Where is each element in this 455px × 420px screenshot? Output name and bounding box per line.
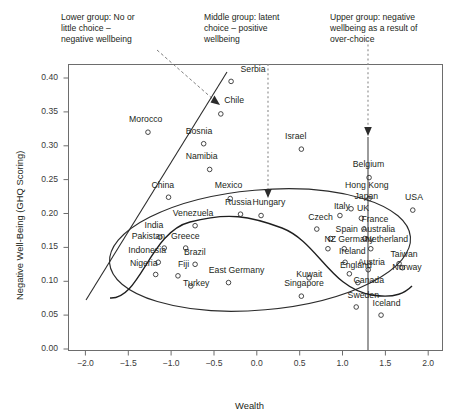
data-point-marker [219,112,224,117]
y-tick-label: 0.35 [31,106,58,116]
data-point-marker [410,208,415,213]
x-tick-label: −1.5 [117,358,139,368]
x-tick-label: 1.5 [374,358,396,368]
data-point-label: NZ [325,234,337,244]
y-tick-label: 0.40 [31,72,58,82]
data-point-marker [166,195,171,200]
data-point-marker [201,141,206,146]
x-tick-label: 0.5 [289,358,311,368]
data-point-label: Namibia [186,151,218,161]
data-point-label: Turkey [183,278,209,288]
data-point-label: India [145,220,164,230]
data-point-marker [193,262,198,267]
y-axis-ticks [64,78,69,349]
x-tick-label: 0.0 [246,358,268,368]
data-point-label: Canada [354,275,384,285]
data-point-marker [193,223,198,228]
data-point-marker [368,246,373,251]
data-point-label: Brazil [184,247,206,257]
data-point-label: Indonesia [128,245,166,255]
data-point-label: Bosnia [186,126,213,136]
data-point-marker [354,305,359,310]
data-point-label: Chile [224,95,244,105]
upper-group-dashed-line [364,40,372,136]
data-point-label: Taiwan [391,249,418,259]
data-point-label: Iceland [373,298,401,308]
x-tick-label: −0.5 [203,358,225,368]
data-point-label: Singapore [284,278,324,288]
y-tick-label: 0.00 [31,343,58,353]
data-point-label: Israel [285,131,306,141]
data-point-label: Nigeria [130,258,158,268]
data-point-label: Belgium [353,159,384,169]
data-point-label: Spain [336,224,358,234]
data-point-label: Norway [392,262,421,272]
data-point-label: France [361,214,388,224]
data-point-marker [207,167,212,172]
data-point-marker [176,274,181,279]
data-point-label: Japan [355,191,379,201]
data-point-label: Russia [225,197,252,207]
x-tick-label: 2.0 [417,358,439,368]
data-point-label: Hungary [253,197,286,207]
data-point-label: Kuwait [296,269,322,279]
data-point-marker [379,313,384,318]
data-point-label: Hong Kong [345,180,388,190]
data-point-marker [347,272,352,277]
data-point-marker [314,227,319,232]
data-point-label: Australia [361,224,395,234]
y-tick-label: 0.15 [31,241,58,251]
y-tick-label: 0.10 [31,275,58,285]
middle-group-dashed-line [264,64,272,198]
data-point-marker [299,147,304,152]
data-point-label: Mexico [215,180,243,190]
data-point-label: USA [405,192,423,202]
x-tick-label: −2.0 [74,358,96,368]
data-point-label: Czech [308,212,333,222]
plot-canvas [0,0,455,420]
data-point-label: Ireland [339,246,366,256]
data-point-marker [146,130,151,135]
data-point-marker [229,79,234,84]
data-point-marker [259,213,264,218]
data-point-marker [238,212,243,217]
data-point-label: Austria [358,257,385,267]
data-point-label: Serbia [241,64,266,74]
data-point-label: China [151,180,174,190]
data-point-marker [226,280,231,285]
y-tick-label: 0.30 [31,140,58,150]
data-point-label: Morocco [129,114,162,124]
y-tick-label: 0.20 [31,208,58,218]
y-tick-label: 0.25 [31,174,58,184]
data-point-label: Venezuela [173,208,214,218]
data-point-label: East Germany [209,265,265,275]
x-tick-label: −1.0 [160,358,182,368]
data-point-marker [326,246,331,251]
data-point-marker [338,213,343,218]
data-point-label: Pakistan [132,231,165,241]
data-point-label: Netherland [366,234,409,244]
data-point-label: Italy [334,201,350,211]
data-point-label: Greece [171,231,200,241]
lower-group-leader-line [157,50,220,105]
x-axis-ticks [85,351,428,356]
data-point-label: Fiji [178,259,189,269]
x-tick-label: 1.0 [332,358,354,368]
data-point-label: UK [357,203,369,213]
data-point-marker [299,294,304,299]
y-tick-label: 0.05 [31,309,58,319]
data-point-marker [153,272,158,277]
chart-figure: Lower group: No or little choice – negat… [0,0,455,420]
